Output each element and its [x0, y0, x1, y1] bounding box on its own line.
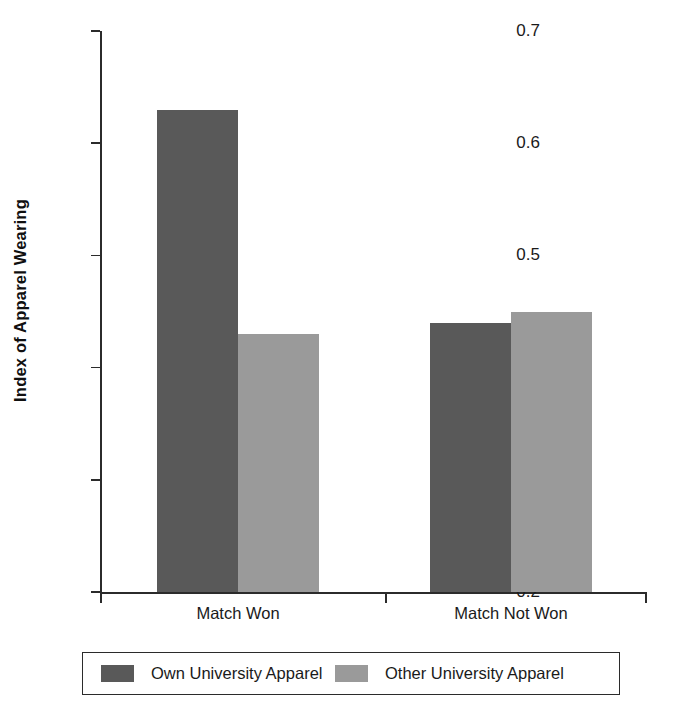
legend-entry[interactable]: Own University Apparel	[101, 653, 323, 694]
x-axis-tick	[385, 592, 387, 603]
y-axis-tick	[91, 30, 100, 32]
x-axis-tick	[645, 592, 647, 603]
x-axis-tick	[100, 592, 102, 603]
y-axis-title: Index of Apparel Wearing	[0, 0, 40, 600]
x-axis-line	[100, 592, 646, 594]
legend-label: Other University Apparel	[385, 664, 564, 683]
bar	[430, 323, 511, 592]
y-axis-tick-label: 0.5	[516, 245, 540, 265]
bar-chart-figure: Index of Apparel Wearing 0.70.60.50.40.3…	[0, 0, 685, 723]
y-axis-tick	[91, 255, 100, 257]
y-axis-tick	[91, 591, 100, 593]
plot-area: 0.70.60.50.40.30.2	[100, 31, 645, 592]
legend-box: Own University ApparelOther University A…	[82, 652, 620, 695]
legend-entry[interactable]: Other University Apparel	[335, 653, 564, 694]
category-label: Match Won	[196, 604, 279, 623]
y-axis-tick	[91, 367, 100, 369]
legend-swatch	[101, 665, 134, 682]
y-axis-tick	[91, 142, 100, 144]
legend-label: Own University Apparel	[151, 664, 323, 683]
y-axis-tick	[91, 479, 100, 481]
bar	[157, 110, 238, 592]
legend-swatch	[335, 665, 368, 682]
category-label: Match Not Won	[454, 604, 567, 623]
y-axis-title-text: Index of Apparel Wearing	[11, 199, 30, 402]
y-axis-tick-label: 0.6	[516, 133, 540, 153]
y-axis-tick-label: 0.7	[516, 21, 540, 41]
bar	[511, 312, 592, 593]
bar	[238, 334, 319, 592]
